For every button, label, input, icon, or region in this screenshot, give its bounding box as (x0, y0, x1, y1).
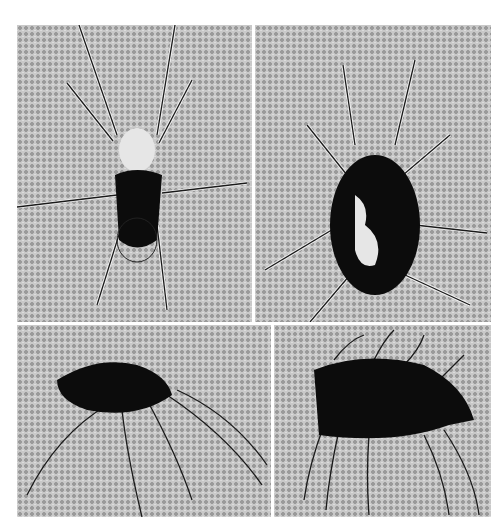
mite-bottom-right-image (274, 325, 491, 517)
mite-gnathosoma (119, 128, 155, 172)
panel-top-left (17, 25, 252, 322)
panel-bottom-right (274, 325, 491, 517)
mite-legs (27, 390, 267, 517)
mite-top-right-image (255, 25, 491, 322)
mite-body (314, 359, 474, 439)
mite-body (57, 362, 172, 413)
mite-body (330, 155, 420, 295)
panel-bottom-left (17, 325, 271, 517)
mite-top-left-image (17, 25, 252, 322)
panel-top-right (255, 25, 491, 322)
mite-body (115, 170, 162, 248)
mite-bottom-left-image (17, 325, 271, 517)
figure-plate (0, 0, 504, 530)
